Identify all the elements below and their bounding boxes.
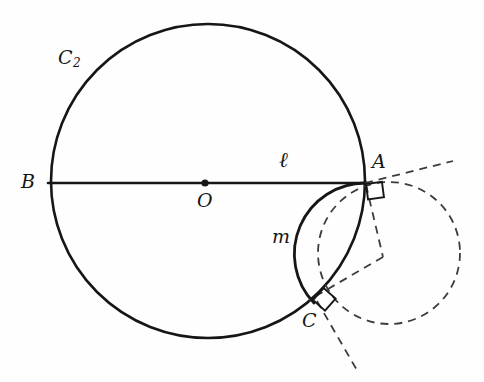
geometry-figure: C2 B O A C ℓ m bbox=[0, 0, 484, 382]
arc-m bbox=[294, 183, 366, 303]
label-point-b: B bbox=[21, 172, 35, 191]
right-angle-marker-a bbox=[365, 180, 386, 201]
circle-c2 bbox=[51, 24, 365, 338]
right-angle-marker-c bbox=[312, 287, 336, 311]
label-circle-c2: C2 bbox=[58, 48, 81, 69]
dashed-construction-circle bbox=[318, 182, 460, 324]
label-point-c: C bbox=[302, 311, 317, 330]
label-point-o: O bbox=[197, 191, 213, 210]
dashed-radius-c bbox=[309, 257, 383, 300]
label-point-a: A bbox=[372, 152, 386, 171]
label-circle-c2-subscript: 2 bbox=[73, 56, 81, 70]
center-point-o-dot bbox=[201, 179, 208, 186]
dashed-radius-a bbox=[366, 185, 383, 257]
label-circle-c2-text: C bbox=[58, 46, 73, 68]
label-arc-m: m bbox=[272, 227, 290, 246]
label-line-l: ℓ bbox=[279, 150, 288, 171]
dashed-ray-from-c bbox=[317, 301, 358, 372]
